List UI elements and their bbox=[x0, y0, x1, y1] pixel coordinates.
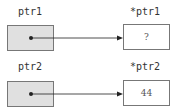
arrows bbox=[0, 0, 178, 111]
arrow-ptr1 bbox=[29, 36, 123, 41]
arrow-ptr2 bbox=[29, 92, 123, 97]
